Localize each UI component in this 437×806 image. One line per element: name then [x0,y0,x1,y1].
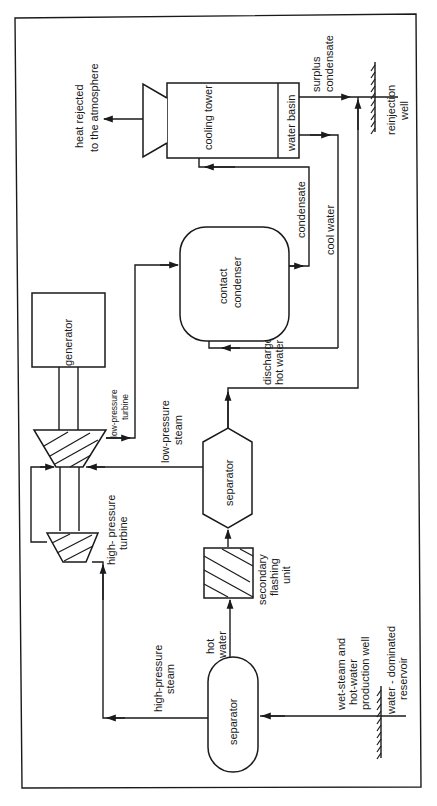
reinjection-well-ground [371,62,375,134]
lp-steam-label-2: steam [172,415,184,445]
reservoir-label-2: reservoir [397,657,409,700]
generator: generator [32,293,105,367]
flashing-unit-label: secondary [256,554,268,605]
condensate-label: condensate [295,181,307,238]
reinjection-well-label-2: well [398,101,410,121]
high-pressure-turbine [47,533,98,562]
secondary-separator: separator [203,428,252,528]
reinjection-well-label: reinjection [385,85,397,135]
secondary-separator-label: separator [223,459,235,506]
lp-steam-label: low-pressure [159,400,171,463]
secondary-flashing-unit [204,548,253,598]
hot-water-label-2: water [216,631,228,659]
contact-condenser-label: contact [217,269,229,304]
hp-steam-label-2: steam [164,664,176,694]
cool-water-label: cool water [324,205,336,255]
contact-condenser: contact condenser [180,227,289,341]
water-basin-label: water basin [285,95,297,152]
contact-condenser-label-2: condenser [231,256,243,308]
reservoir-label: water - dominated [385,626,397,715]
hp-exhaust-loop [31,467,50,542]
low-pressure-turbine [34,430,106,467]
heat-rejected-label-2: to the atmosphere [88,63,100,152]
surplus-condensate-label-2: condensate [323,35,335,92]
heat-rejected-label: heat rejected [73,84,85,148]
hp-turbine-label-2: turbine [117,516,129,550]
production-well-label: wet-steam and [335,638,347,711]
discharge-hot-water-label-2: hot water [273,339,285,385]
generator-label: generator [62,319,74,366]
flashing-unit-label-3: unit [280,566,292,584]
production-well-label-3: production well [359,637,371,710]
primary-separator-label: separator [227,698,239,745]
geothermal-flow-diagram: cooling tower water basin heat rejected … [0,0,437,806]
discharge-hot-water-label: discharge [261,337,273,385]
surplus-condensate-label: surplus [310,56,322,92]
cooling-tower: cooling tower water basin [143,83,299,158]
reservoir-ground [377,686,381,759]
lp-turbine-label: low-pressure [109,389,119,438]
high-pressure-steam-line [92,562,208,718]
flashing-unit-label-2: flashing [268,558,280,596]
primary-separator: separator [208,657,258,772]
cooling-tower-label: cooling tower [202,85,214,150]
hp-turbine-label: high- pressure [105,495,117,565]
hot-water-label: hot [204,639,216,654]
production-well-label-2: hot-water [347,659,359,705]
lp-turbine-label-2: turbine [120,394,130,420]
hp-steam-label: high-pressure [152,645,164,712]
